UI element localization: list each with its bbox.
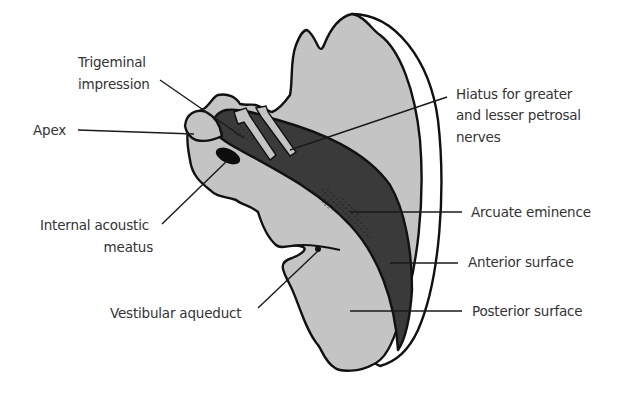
label-trigeminal-impression: Trigeminal impression [77, 54, 150, 92]
label-hiatus-line2: and lesser petrosal [456, 107, 581, 123]
petrous-bone-diagram: Trigeminal impression Apex Internal acou… [0, 0, 628, 393]
label-internal-acoustic-line1: Internal acoustic [40, 217, 149, 233]
label-apex: Apex [33, 122, 66, 138]
label-trigeminal-line1: Trigeminal [77, 54, 146, 70]
label-hiatus-petrosal-nerves: Hiatus for greater and lesser petrosal n… [456, 86, 585, 145]
label-vestibular-aqueduct: Vestibular aqueduct [110, 305, 241, 321]
label-hiatus-line1: Hiatus for greater [456, 86, 573, 102]
label-posterior-surface: Posterior surface [472, 303, 582, 319]
label-internal-acoustic-meatus: Internal acoustic meatus [40, 217, 153, 255]
leader-apex [78, 130, 194, 134]
label-internal-acoustic-line2: meatus [104, 239, 154, 255]
label-arcuate-eminence: Arcuate eminence [471, 204, 591, 220]
label-trigeminal-line2: impression [78, 76, 150, 92]
label-hiatus-line3: nerves [456, 129, 501, 145]
label-anterior-surface: Anterior surface [468, 254, 574, 270]
